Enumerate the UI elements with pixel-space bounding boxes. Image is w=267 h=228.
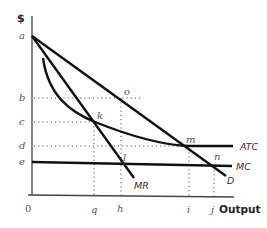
atc-curve	[43, 58, 233, 146]
x-axis-label: Output	[219, 203, 260, 215]
y-tick-c: c	[19, 116, 25, 127]
origin-label: 0	[25, 203, 31, 214]
mc-curve	[32, 162, 232, 166]
mc-label: MC	[236, 161, 251, 172]
atc-label: ATC	[239, 141, 259, 152]
point-m: m	[186, 134, 195, 145]
demand-curve	[32, 36, 226, 176]
y-tick-d: d	[19, 140, 25, 151]
x-tick-i: i	[187, 204, 190, 215]
demand-label: D	[227, 175, 234, 186]
y-axis-label: $	[17, 12, 25, 25]
x-tick-h: h	[117, 203, 123, 214]
point-o: o	[124, 86, 130, 97]
point-n: n	[214, 151, 220, 162]
x-tick-q: q	[91, 204, 97, 215]
y-tick-e: e	[19, 156, 25, 167]
mr-curve	[32, 36, 134, 178]
mr-label: MR	[134, 180, 149, 191]
monopoly-cost-revenue-diagram: $ a b c d e 0 q h i j Output o k m n l A…	[0, 0, 267, 228]
y-tick-b: b	[19, 92, 25, 103]
x-axis	[28, 195, 234, 197]
point-l: l	[123, 152, 126, 163]
point-k: k	[97, 110, 103, 121]
y-tick-a: a	[19, 30, 25, 41]
x-tick-j: j	[209, 204, 214, 215]
